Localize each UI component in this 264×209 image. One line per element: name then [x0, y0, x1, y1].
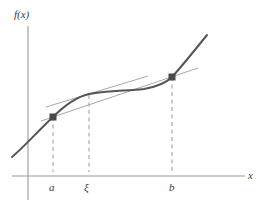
function-curve: [12, 35, 207, 157]
figure-container: f(x) x a ξ b: [0, 0, 264, 209]
y-axis-label: f(x): [14, 9, 29, 20]
x-axis-label: x: [248, 170, 253, 181]
point-marker-b: [169, 74, 176, 81]
point-marker-a: [50, 114, 57, 121]
mean-value-theorem-figure: [0, 0, 264, 209]
axes-group: [12, 26, 245, 200]
tick-label-b: b: [169, 182, 175, 193]
tick-label-xi: ξ: [84, 182, 89, 193]
tick-label-a: a: [49, 182, 55, 193]
